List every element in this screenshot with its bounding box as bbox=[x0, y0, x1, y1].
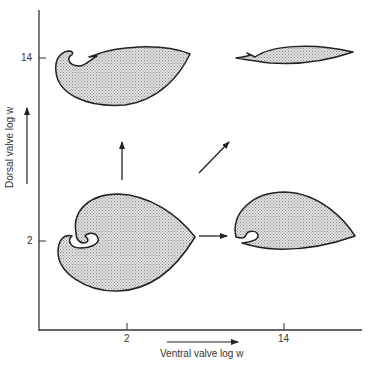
shell-top-left bbox=[56, 47, 190, 106]
y-tick-label-14: 14 bbox=[21, 52, 32, 63]
y-tick-label-2: 2 bbox=[27, 235, 33, 246]
arrow-diagonal-icon bbox=[199, 142, 229, 173]
shell-top-right bbox=[236, 46, 353, 63]
x-tick-label-14: 14 bbox=[278, 333, 289, 344]
y-axis-title: Dorsal valve log w bbox=[4, 107, 15, 188]
x-tick-label-2: 2 bbox=[124, 333, 130, 344]
shell-bottom-right bbox=[235, 192, 355, 249]
x-axis-title: Ventral valve log w bbox=[160, 348, 243, 359]
morphospace-diagram bbox=[0, 0, 369, 366]
shell-bottom-left bbox=[58, 194, 195, 291]
